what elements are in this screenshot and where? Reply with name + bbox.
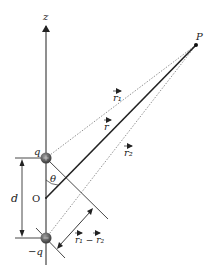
origin-point <box>45 197 47 199</box>
point-p-label: P <box>195 31 203 42</box>
r-vector-line <box>46 45 196 198</box>
separation-dimension <box>20 159 25 237</box>
r2-label: r₂ <box>124 147 133 158</box>
negative-charge-label: −q <box>28 246 43 257</box>
dipole-diagram: z P d θ O q −q r₁ r <box>0 0 214 275</box>
theta-label: θ <box>50 173 56 184</box>
difference-label: r₁ − r₂ <box>75 235 104 245</box>
z-axis-label: z <box>42 11 49 22</box>
point-p <box>194 43 198 47</box>
positive-charge-label: q <box>34 146 40 157</box>
r1-label: r₁ <box>113 92 122 103</box>
r1-label-group: r₁ <box>113 91 122 103</box>
difference-label-group: r₁ − r₂ <box>75 233 104 245</box>
origin-label: O <box>32 193 40 204</box>
r-label-group: r <box>104 120 111 132</box>
separation-label: d <box>11 192 18 205</box>
r2-label-group: r₂ <box>124 146 133 158</box>
r-label: r <box>104 121 110 132</box>
